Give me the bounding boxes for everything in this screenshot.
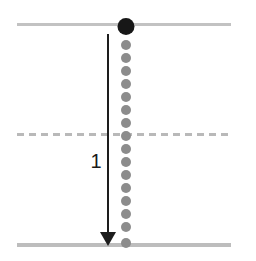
marker-dot	[121, 183, 131, 193]
marker-dot	[121, 92, 131, 102]
marker-dot	[121, 40, 131, 50]
marker-dot	[121, 131, 131, 141]
marker-dot	[121, 157, 131, 167]
marker-dot	[121, 238, 131, 248]
marker-dot	[121, 118, 131, 128]
figure-canvas: 1	[0, 0, 256, 261]
marker-dot	[121, 66, 131, 76]
marker-dot	[121, 53, 131, 63]
highlighted-marker-dot	[118, 18, 135, 35]
marker-dot	[121, 209, 131, 219]
displacement-arrow-shaft	[107, 34, 109, 238]
marker-dot	[121, 144, 131, 154]
marker-dot	[121, 170, 131, 180]
displacement-arrow-head-icon	[100, 232, 116, 246]
marker-dot	[121, 222, 131, 232]
marker-dot	[121, 105, 131, 115]
marker-dot	[121, 79, 131, 89]
marker-dot	[121, 196, 131, 206]
displacement-arrow-label: 1	[88, 150, 104, 172]
marker-dot-column	[118, 18, 134, 250]
